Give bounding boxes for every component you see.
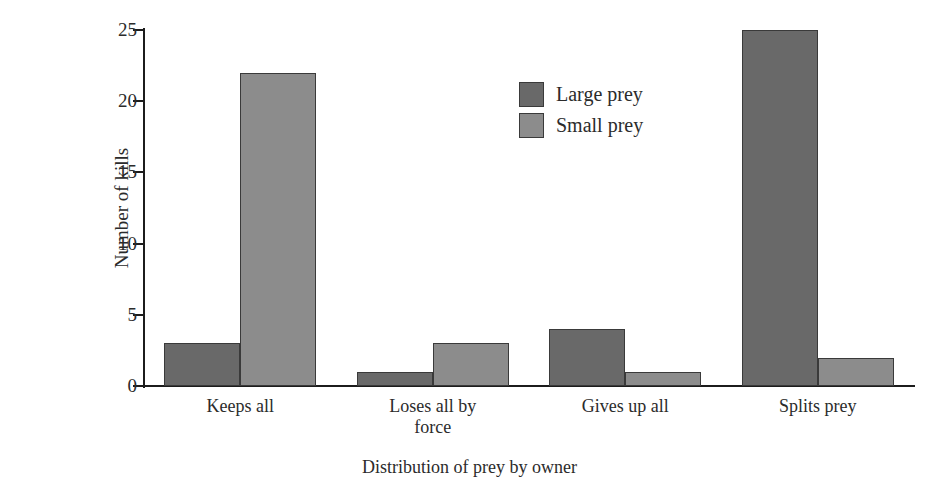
x-tick-label: Loses all byforce <box>337 396 530 438</box>
y-tick-label: 25 <box>118 19 137 41</box>
bar <box>164 343 240 386</box>
legend-swatch-icon <box>519 82 544 107</box>
bar-group <box>742 30 894 386</box>
y-tick-label: 10 <box>118 233 137 255</box>
y-tick-label: 15 <box>118 161 137 183</box>
bar-group <box>164 30 316 386</box>
bar-chart-figure: Number of kills 0510152025 Keeps allLose… <box>0 0 939 499</box>
legend: Large prey Small prey <box>519 79 643 141</box>
x-axis-title: Distribution of prey by owner <box>0 457 939 478</box>
legend-swatch-icon <box>519 113 544 138</box>
bar-group <box>357 30 509 386</box>
legend-label: Small prey <box>556 114 643 137</box>
bar <box>549 329 625 386</box>
x-tick-label: Splits prey <box>722 396 915 417</box>
x-tick-label: Keeps all <box>144 396 337 417</box>
x-tick-label: Gives up all <box>529 396 722 417</box>
bar <box>240 73 316 386</box>
y-tick-label: 0 <box>128 375 138 397</box>
legend-item-small-prey: Small prey <box>519 110 643 141</box>
y-tick-label: 20 <box>118 90 137 112</box>
bar <box>625 372 701 386</box>
y-tick-label: 5 <box>128 304 138 326</box>
legend-item-large-prey: Large prey <box>519 79 643 110</box>
bar <box>433 343 509 386</box>
bar <box>742 30 818 386</box>
legend-label: Large prey <box>556 83 643 106</box>
bar <box>818 358 894 386</box>
bar <box>357 372 433 386</box>
